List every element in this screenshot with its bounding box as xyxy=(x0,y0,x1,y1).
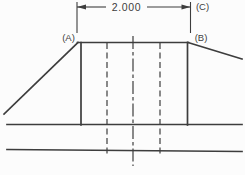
point-a-label: (A) xyxy=(62,32,75,43)
point-c-label: (C) xyxy=(196,1,209,12)
point-b-label: (B) xyxy=(195,32,208,43)
right-slope-line xyxy=(188,43,242,60)
profile-drawing: 2.000 (A) (B) (C) xyxy=(0,0,245,175)
lower-base-line xyxy=(7,150,242,152)
left-slope-line xyxy=(4,43,78,115)
dimension-arrow-right-icon xyxy=(182,5,191,10)
dimension-arrow-left-icon xyxy=(77,5,86,10)
dimension-value-label: 2.000 xyxy=(112,1,141,13)
technical-drawing-canvas: 2.000 (A) (B) (C) xyxy=(0,0,245,175)
